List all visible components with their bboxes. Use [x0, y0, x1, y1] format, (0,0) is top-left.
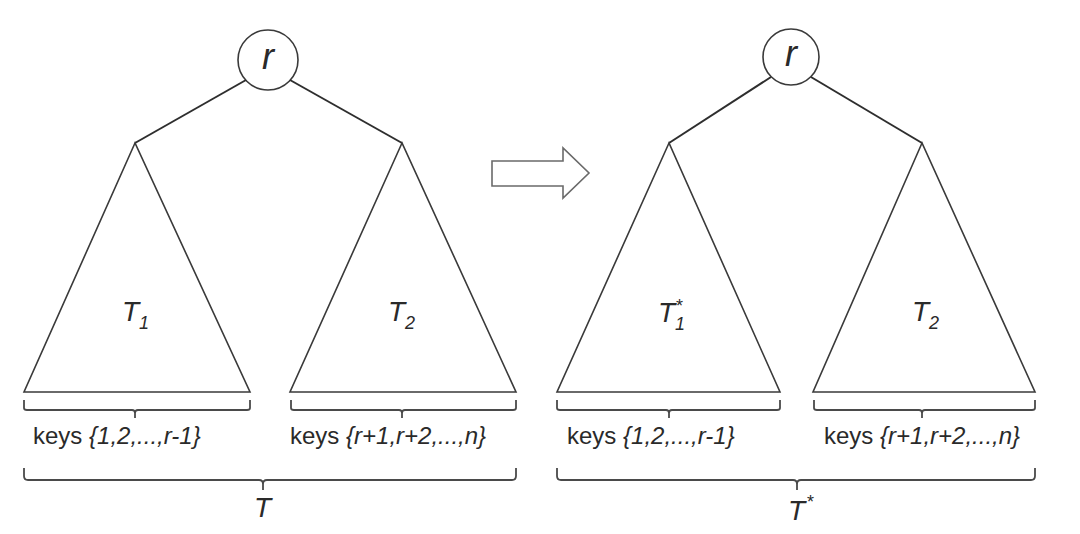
root-label-right: r	[771, 33, 811, 75]
subtree-t2-triangle	[290, 143, 516, 392]
keys-prefix: keys	[290, 422, 346, 449]
brace-t2-right-keys	[814, 400, 1035, 418]
diagram-canvas	[0, 0, 1080, 534]
whole-tree-label-t-star: T*	[788, 492, 814, 527]
brace-whole-tree-t-star	[557, 468, 1035, 490]
subtree-name: T	[912, 296, 929, 327]
keys-label-t2: keys {r+1,r+2,...,n}	[290, 422, 486, 450]
keys-prefix: keys	[824, 422, 880, 449]
brace-t1-star-keys	[557, 400, 780, 418]
keys-prefix: keys	[33, 422, 89, 449]
subtree-label-t1: T1	[122, 296, 149, 334]
keys-label-t2-right: keys {r+1,r+2,...,n}	[824, 422, 1020, 450]
brace-t2-keys	[291, 400, 516, 418]
subtree-t1-star-triangle	[557, 143, 780, 392]
edge-root-to-t1	[135, 80, 246, 143]
brace-t1-keys	[24, 400, 250, 418]
subtree-subscript: 2	[929, 313, 939, 333]
edge-root-to-t2-right	[811, 77, 922, 143]
keys-set: {1,2,...,r-1}	[623, 422, 735, 449]
subtree-name: T	[388, 296, 405, 327]
root-label-left: r	[248, 36, 288, 78]
subtree-name: T	[658, 297, 675, 328]
subtree-t2-right-triangle	[813, 143, 1035, 392]
subtree-subscript: 1	[675, 314, 685, 334]
keys-label-t1-star: keys {1,2,...,r-1}	[567, 422, 735, 450]
whole-tree-name: T	[788, 495, 805, 526]
edge-root-to-t1-star	[669, 77, 771, 143]
subtree-superscript: *	[675, 296, 682, 316]
subtree-subscript: 1	[139, 313, 149, 333]
subtree-subscript: 2	[405, 313, 415, 333]
subtree-t1-triangle	[24, 143, 250, 392]
whole-tree-label-t: T	[254, 492, 271, 524]
keys-label-t1: keys {1,2,...,r-1}	[33, 422, 201, 450]
subtree-label-t2-right: T2	[912, 296, 939, 334]
keys-set: {r+1,r+2,...,n}	[880, 422, 1020, 449]
subtree-name: T	[122, 296, 139, 327]
subtree-label-t2: T2	[388, 296, 415, 334]
right-tree	[557, 29, 1035, 490]
whole-tree-superscript: *	[807, 492, 814, 512]
keys-set: {1,2,...,r-1}	[89, 422, 201, 449]
edge-root-to-t2	[290, 80, 402, 143]
brace-whole-tree-t	[24, 468, 516, 490]
subtree-label-t1-star: T1*	[658, 296, 682, 335]
keys-prefix: keys	[567, 422, 623, 449]
transform-arrow-icon	[492, 148, 589, 198]
keys-set: {r+1,r+2,...,n}	[346, 422, 486, 449]
left-tree	[24, 30, 516, 490]
